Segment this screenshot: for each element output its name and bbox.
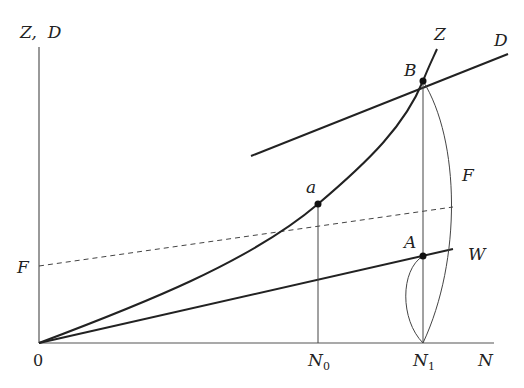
point-b-label: B — [403, 60, 417, 80]
point-a-small — [315, 201, 322, 208]
f-left-label: F — [16, 257, 30, 277]
y-axis-label: Z, D — [19, 22, 62, 42]
n0-subscript: 0 — [323, 360, 330, 373]
w-line-label: W — [468, 244, 487, 264]
z-curve-label: Z — [433, 24, 447, 44]
w-line — [39, 249, 453, 343]
diagram-canvas: Z, D N 0 N 0 N 1 Z D W F F B a A — [0, 0, 524, 388]
point-a-capital — [420, 253, 427, 260]
a-n1-arc — [406, 256, 423, 343]
point-b — [420, 78, 427, 85]
n1-label: N — [412, 350, 429, 370]
f-right-label: F — [461, 165, 475, 185]
d-line — [251, 54, 508, 156]
f-line — [39, 207, 453, 266]
x-axis-label: N — [477, 350, 494, 370]
d-line-label: D — [493, 30, 508, 50]
b-n1-arc — [423, 81, 452, 343]
n0-label: N — [307, 350, 324, 370]
point-a-capital-label: A — [402, 232, 416, 252]
n1-subscript: 1 — [428, 360, 435, 373]
z-curve — [39, 49, 437, 343]
origin-label: 0 — [33, 351, 43, 370]
point-a-small-label: a — [306, 177, 316, 197]
